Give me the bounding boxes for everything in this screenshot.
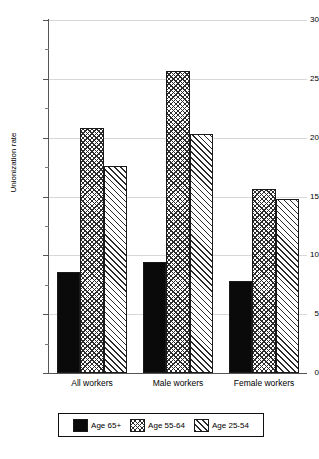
x-axis-category-label: Female workers [221, 378, 307, 388]
bar [57, 272, 81, 373]
y-axis-title: Unionization rate [9, 113, 18, 213]
legend-swatch [73, 419, 88, 432]
bar [143, 262, 167, 373]
bar [104, 166, 128, 373]
bar [252, 189, 276, 373]
x-axis-line [48, 373, 307, 374]
chart-legend: Age 65+Age 55-64Age 25-54 [58, 413, 264, 437]
legend-label: Age 25-54 [212, 421, 249, 430]
legend-entry: Age 25-54 [194, 419, 249, 432]
legend-entry: Age 65+ [73, 419, 121, 432]
legend-entry: Age 55-64 [130, 419, 185, 432]
legend-swatch [194, 419, 209, 432]
legend-swatch [130, 419, 145, 432]
bar [229, 281, 253, 373]
bar [276, 199, 300, 373]
gridline [49, 20, 307, 21]
x-axis-category-label: All workers [49, 378, 135, 388]
bar [190, 134, 214, 373]
bar-chart-figure: Unionization rate 051015202530 All worke… [0, 0, 319, 459]
bar [80, 128, 104, 373]
x-axis-category-label: Male workers [135, 378, 221, 388]
legend-label: Age 55-64 [148, 421, 185, 430]
bar [166, 71, 190, 373]
legend-label: Age 65+ [91, 421, 121, 430]
plot-area [49, 20, 307, 373]
y-axis-tick [43, 373, 49, 374]
